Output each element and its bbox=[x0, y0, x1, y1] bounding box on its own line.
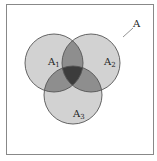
universe-label: A bbox=[132, 18, 141, 29]
venn-diagram: A A1 A2 A3 bbox=[0, 0, 157, 161]
